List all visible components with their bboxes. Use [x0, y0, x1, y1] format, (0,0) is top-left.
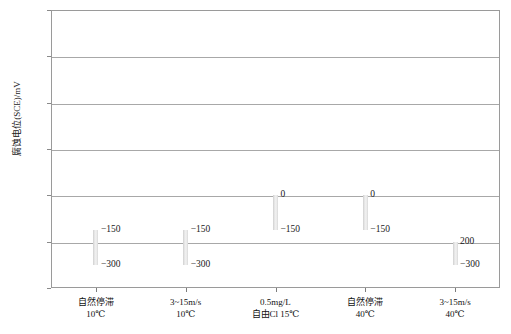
x-category-line: 3~15m/s [439, 296, 470, 308]
gridline-400 [52, 104, 499, 105]
x-category-line: 0.5mg/L [252, 296, 300, 308]
bar-bottom-value-label: −300 [191, 259, 211, 269]
gridline-600 [52, 57, 499, 58]
range-bar[interactable] [93, 230, 98, 265]
y-tick-mark [47, 288, 51, 289]
y-tick-mark [47, 195, 51, 196]
range-bar[interactable] [363, 195, 368, 230]
x-tick-mark [186, 288, 187, 292]
y-axis-title: 腐蚀电位(SCE)/mV [10, 49, 23, 189]
bar-top-value-label: 200 [460, 236, 474, 246]
x-category-label: 3~15m/s40℃ [439, 296, 470, 320]
x-category-line: 自然停滞 [347, 296, 383, 308]
bar-bottom-value-label: −300 [101, 259, 121, 269]
x-tick-mark [365, 288, 366, 292]
y-tick-mark [47, 103, 51, 104]
x-tick-mark [96, 288, 97, 292]
gridline-200 [52, 150, 499, 151]
gridline--200 [52, 243, 499, 244]
corrosion-potential-chart: 腐蚀电位(SCE)/mV −400−2000200400600800−150−3… [0, 0, 511, 334]
x-category-line: 40℃ [439, 308, 470, 320]
x-category-line: 10℃ [170, 308, 201, 320]
x-category-label: 自然停滞10℃ [78, 296, 114, 320]
x-tick-mark [455, 288, 456, 292]
y-tick-mark [47, 10, 51, 11]
x-category-line: 40℃ [347, 308, 383, 320]
x-category-label: 3~15m/s10℃ [170, 296, 201, 320]
x-category-line: 3~15m/s [170, 296, 201, 308]
x-category-line: 自由Cl 15℃ [252, 308, 300, 320]
range-bar[interactable] [453, 242, 458, 265]
bar-bottom-value-label: −300 [460, 259, 480, 269]
bar-top-value-label: 0 [370, 189, 375, 199]
y-tick-mark [47, 149, 51, 150]
bar-bottom-value-label: −150 [370, 224, 390, 234]
x-category-line: 10℃ [78, 308, 114, 320]
bar-top-value-label: −150 [191, 224, 211, 234]
bar-bottom-value-label: −150 [281, 224, 301, 234]
x-category-label: 0.5mg/L自由Cl 15℃ [252, 296, 300, 320]
y-tick-mark [47, 242, 51, 243]
y-tick-mark [47, 56, 51, 57]
x-category-label: 自然停滞40℃ [347, 296, 383, 320]
bar-top-value-label: 0 [281, 189, 286, 199]
bar-top-value-label: −150 [101, 224, 121, 234]
range-bar[interactable] [273, 195, 278, 230]
x-tick-mark [276, 288, 277, 292]
plot-area [51, 10, 500, 288]
x-category-line: 自然停滞 [78, 296, 114, 308]
range-bar[interactable] [183, 230, 188, 265]
